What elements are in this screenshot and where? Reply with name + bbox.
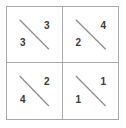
diagonal-line-icon (63, 7, 119, 62)
grid-cell-bottom-right: 1 1 (63, 63, 119, 119)
cell-numerator-value: 4 (100, 21, 106, 31)
cell-numerator-value: 3 (44, 21, 50, 31)
cell-denominator-value: 4 (20, 95, 26, 105)
cell-denominator-value: 2 (76, 38, 82, 48)
diagonal-line-icon (7, 63, 62, 119)
fraction-grid: 3 3 4 2 2 4 1 1 (6, 6, 119, 120)
cell-denominator-value: 3 (20, 38, 26, 48)
diagonal-line-icon (63, 63, 119, 119)
grid-cell-top-left: 3 3 (7, 7, 63, 63)
grid-cell-bottom-left: 2 4 (7, 63, 63, 119)
cell-denominator-value: 1 (76, 95, 82, 105)
diagonal-line-icon (7, 7, 62, 62)
cell-numerator-value: 2 (44, 77, 50, 87)
grid-cell-top-right: 4 2 (63, 7, 119, 63)
cell-numerator-value: 1 (100, 77, 106, 87)
